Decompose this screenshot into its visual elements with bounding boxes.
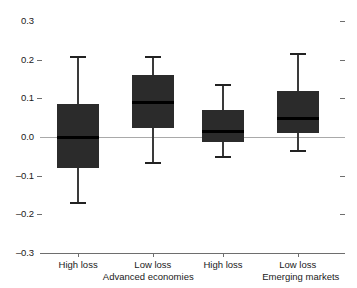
y-tick-mark (37, 214, 42, 215)
box-iqr-rect (202, 110, 244, 142)
y-tick-mark-right (340, 21, 345, 22)
y-tick-mark-right (340, 98, 345, 99)
y-tick-label: 0.1 (0, 93, 34, 103)
x-axis-line (40, 253, 345, 254)
x-group-label: Emerging markets (211, 271, 357, 282)
box-iqr-rect (277, 91, 319, 133)
x-tick-label: Low loss (253, 259, 343, 270)
median-line (132, 101, 174, 104)
y-tick-mark (37, 98, 42, 99)
whisker-cap-lower (290, 150, 306, 152)
y-tick-label: –0.3 (0, 248, 34, 258)
y-tick-mark (37, 60, 42, 61)
y-tick-mark (37, 176, 42, 177)
y-tick-label: –0.1 (0, 171, 34, 181)
whisker-cap-lower (145, 162, 161, 164)
y-tick-mark-right (340, 176, 345, 177)
x-tick-mark (223, 253, 224, 257)
whisker-cap-lower (215, 156, 231, 158)
y-tick-label: 0.2 (0, 55, 34, 65)
whisker-cap-upper (145, 56, 161, 58)
y-tick-label: –0.2 (0, 209, 34, 219)
x-tick-mark (78, 253, 79, 257)
boxplot-chart: 0.30.20.10.0–0.1–0.2–0.3 High lossLow lo… (0, 0, 357, 288)
y-tick-mark-right (340, 214, 345, 215)
x-tick-mark (153, 253, 154, 257)
x-tick-mark (298, 253, 299, 257)
y-tick-mark-right (340, 60, 345, 61)
whisker-cap-upper (290, 53, 306, 55)
median-line (57, 136, 99, 139)
median-line (202, 130, 244, 133)
median-line (277, 117, 319, 120)
whisker-cap-lower (70, 202, 86, 204)
whisker-cap-upper (70, 56, 86, 58)
y-tick-label: 0.3 (0, 16, 34, 26)
whisker-cap-upper (215, 84, 231, 86)
y-tick-label: 0.0 (0, 132, 34, 142)
